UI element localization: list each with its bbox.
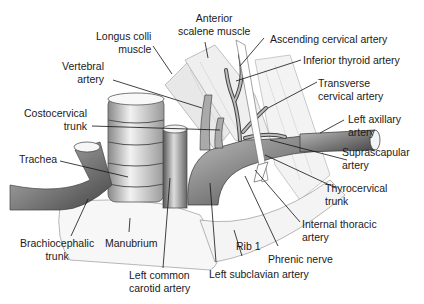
label-trachea: Trachea — [19, 153, 57, 166]
label-rib-1: Rib 1 — [236, 240, 261, 253]
label-internal-thoracic-artery: Internal thoracicartery — [302, 218, 377, 243]
label-longus-colli-muscle: Longus collimuscle — [96, 30, 151, 55]
anatomy-figure: Longus collimuscle Anteriorscalene muscl… — [0, 0, 424, 304]
label-left-common-carotid-artery: Left commoncarotid artery — [129, 269, 190, 294]
label-suprascapular-artery: Suprascapularartery — [342, 146, 410, 171]
label-vertebral-artery: Vertebralartery — [62, 60, 104, 85]
label-anterior-scalene-muscle: Anteriorscalene muscle — [178, 12, 250, 37]
left-common-carotid-artery — [163, 128, 187, 208]
trachea — [108, 93, 164, 202]
label-brachiocephalic-trunk: Brachiocephalictrunk — [20, 237, 94, 262]
label-thyrocervical-trunk: Thyrocervicaltrunk — [325, 182, 387, 207]
label-ascending-cervical-artery: Ascending cervical artery — [270, 33, 387, 46]
label-manubrium: Manubrium — [105, 237, 158, 250]
label-left-subclavian-artery: Left subclavian artery — [209, 268, 309, 281]
label-transverse-cervical-artery: Transversecervical artery — [318, 77, 383, 102]
label-phrenic-nerve: Phrenic nerve — [268, 253, 333, 266]
label-inferior-thyroid-artery: Inferior thyroid artery — [303, 54, 400, 67]
label-costocervical-trunk: Costocervicaltrunk — [24, 107, 87, 132]
label-left-axillary-artery: Left axillaryartery — [348, 113, 401, 138]
